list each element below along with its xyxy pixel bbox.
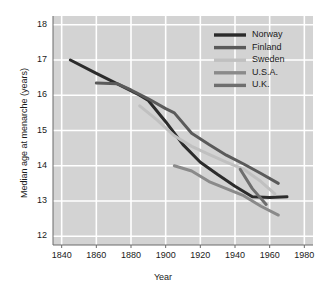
y-axis-title: Median age at menarche (years): [19, 63, 29, 203]
chart-figure: 12131415161718 1840186018801900192019401…: [0, 0, 326, 296]
legend-label-finland: Finland: [252, 42, 282, 52]
legend-label-norway: Norway: [252, 29, 283, 39]
y-tick-label: 18: [23, 19, 47, 29]
x-tick-label: 1980: [284, 250, 324, 260]
legend-label-sweden: Sweden: [252, 54, 285, 64]
y-tick-label: 12: [23, 230, 47, 240]
legend-label-usa: U.S.A.: [252, 67, 278, 77]
legend-label-uk: U.K.: [252, 79, 270, 89]
x-axis-title: Year: [0, 272, 326, 282]
